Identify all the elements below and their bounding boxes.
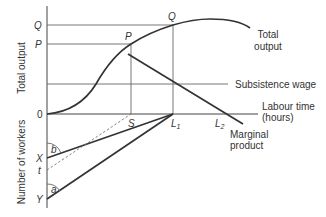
line-x-to-l1	[47, 114, 173, 158]
l2-point-label: L2	[215, 118, 225, 130]
angle-a-label: a	[51, 184, 57, 195]
labour-output-diagram: Total output Number of workers Q P 0 X t…	[0, 0, 326, 217]
marginal-label-line1: Marginal	[230, 129, 268, 140]
labour-time-label: Labour time	[262, 101, 315, 112]
l1-point-label: L1	[171, 118, 181, 130]
origin-label: 0	[37, 109, 43, 120]
subsistence-wage-label: Subsistence wage	[235, 79, 317, 90]
y-axis-mark: Y	[36, 194, 44, 205]
q-axis-mark: Q	[34, 20, 42, 31]
p-point-label: P	[125, 31, 132, 42]
angle-b-label: b	[51, 144, 57, 155]
hours-label: (hours)	[262, 112, 294, 123]
x-axis-mark: X	[35, 153, 43, 164]
t-axis-mark: t	[38, 165, 42, 176]
dashed-line-t-to-s	[47, 114, 131, 170]
total-output-label-line1: Total	[257, 29, 278, 40]
p-axis-mark: P	[35, 39, 42, 50]
s-point-label: S	[128, 118, 135, 129]
q-point-label: Q	[168, 11, 176, 22]
number-of-workers-axis-label: Number of workers	[16, 120, 27, 204]
line-y-to-l1	[47, 114, 173, 199]
total-output-label-line2: output	[254, 41, 282, 52]
marginal-label-line2: product	[230, 140, 264, 151]
total-output-axis-label: Total output	[16, 42, 27, 94]
